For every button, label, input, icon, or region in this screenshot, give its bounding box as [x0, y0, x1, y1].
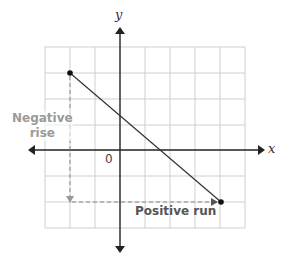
x-axis-left-arrow-icon: [28, 145, 35, 155]
x-axis-right-arrow-icon: [258, 145, 265, 155]
positive-run-label: Positive run: [135, 204, 216, 218]
y-axis-label: y: [115, 7, 122, 22]
origin-label: 0: [105, 152, 113, 166]
y-axis-down-arrow-icon: [115, 246, 125, 253]
negative-rise-label: Negative rise: [12, 111, 73, 141]
end-point: [218, 199, 224, 205]
negative-rise-line1: Negative: [12, 111, 73, 126]
x-axis-label: x: [268, 141, 275, 156]
y-axis-up-arrow-icon: [115, 27, 125, 34]
negative-rise-line2: rise: [12, 126, 73, 141]
start-point: [67, 70, 73, 76]
